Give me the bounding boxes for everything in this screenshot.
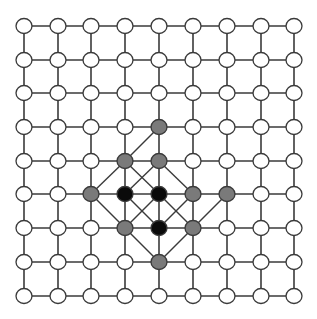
node-empty (16, 255, 32, 270)
node-empty (219, 221, 235, 236)
node-black (117, 187, 133, 202)
node-empty (286, 19, 302, 34)
node-empty (16, 221, 32, 236)
node-empty (286, 154, 302, 169)
node-empty (286, 120, 302, 135)
node-empty (185, 255, 201, 270)
node-empty (83, 255, 99, 270)
node-empty (83, 289, 99, 304)
node-empty (50, 289, 66, 304)
node-gray (185, 221, 201, 236)
node-empty (219, 53, 235, 68)
node-empty (50, 86, 66, 101)
node-empty (16, 53, 32, 68)
node-empty (83, 120, 99, 135)
node-empty (16, 187, 32, 202)
node-empty (219, 19, 235, 34)
node-empty (219, 86, 235, 101)
node-empty (286, 187, 302, 202)
node-empty (83, 221, 99, 236)
node-black (151, 221, 167, 236)
node-empty (253, 187, 269, 202)
node-gray (151, 120, 167, 135)
node-empty (117, 19, 133, 34)
node-empty (253, 120, 269, 135)
node-empty (185, 120, 201, 135)
node-empty (185, 154, 201, 169)
node-empty (286, 255, 302, 270)
node-empty (219, 255, 235, 270)
node-empty (50, 187, 66, 202)
node-empty (253, 221, 269, 236)
node-empty (253, 86, 269, 101)
node-gray (151, 255, 167, 270)
node-empty (151, 53, 167, 68)
node-empty (16, 289, 32, 304)
node-empty (151, 19, 167, 34)
node-empty (151, 86, 167, 101)
node-empty (219, 154, 235, 169)
node-empty (16, 19, 32, 34)
node-empty (83, 86, 99, 101)
node-empty (117, 289, 133, 304)
node-gray (117, 221, 133, 236)
node-empty (16, 86, 32, 101)
node-empty (50, 221, 66, 236)
node-empty (50, 120, 66, 135)
node-empty (117, 255, 133, 270)
node-empty (83, 19, 99, 34)
node-empty (50, 19, 66, 34)
node-empty (286, 221, 302, 236)
node-empty (286, 289, 302, 304)
node-empty (50, 255, 66, 270)
node-empty (185, 86, 201, 101)
node-empty (219, 120, 235, 135)
node-empty (117, 53, 133, 68)
grid-nodes (16, 19, 302, 304)
node-gray (83, 187, 99, 202)
node-empty (16, 120, 32, 135)
node-empty (50, 154, 66, 169)
node-gray (151, 154, 167, 169)
node-empty (286, 86, 302, 101)
node-empty (50, 53, 66, 68)
node-empty (151, 289, 167, 304)
node-empty (286, 53, 302, 68)
node-empty (253, 154, 269, 169)
node-empty (117, 120, 133, 135)
node-gray (117, 154, 133, 169)
node-empty (253, 289, 269, 304)
node-gray (185, 187, 201, 202)
node-empty (117, 86, 133, 101)
node-empty (219, 289, 235, 304)
node-empty (16, 154, 32, 169)
node-empty (253, 255, 269, 270)
grid-graph-diagram (0, 0, 317, 319)
node-empty (185, 53, 201, 68)
node-gray (219, 187, 235, 202)
node-empty (185, 289, 201, 304)
node-empty (253, 19, 269, 34)
node-empty (83, 154, 99, 169)
node-empty (185, 19, 201, 34)
node-empty (83, 53, 99, 68)
node-empty (253, 53, 269, 68)
node-black (151, 187, 167, 202)
